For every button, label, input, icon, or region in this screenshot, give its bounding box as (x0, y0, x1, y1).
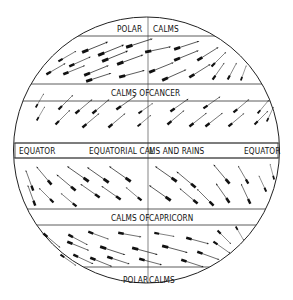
label-polar-south-left: POLAR (123, 275, 148, 285)
label-equatorial-right: MS AND RAINS (149, 146, 205, 156)
label-equator-left: EQUATOR (19, 146, 55, 156)
label-equatorial-left: EQUATORIAL CAL (89, 146, 155, 156)
label-polar-north-left: POLAR (117, 24, 142, 34)
label-cancer-left: CALMS OF (111, 88, 150, 98)
label-polar-south-right: CALMS (149, 275, 175, 285)
label-polar-north-right: CALMS (153, 24, 179, 34)
label-equator-right: EQUATOR (244, 146, 280, 156)
label-cancer-right: CANCER (149, 88, 180, 98)
label-capricorn-right: CAPRICORN (149, 213, 193, 223)
wind-belts-diagram: POLAR CALMS CALMS OF CANCER EQUATOR EQUA… (0, 0, 293, 300)
label-capricorn-left: CALMS OF (111, 213, 150, 223)
